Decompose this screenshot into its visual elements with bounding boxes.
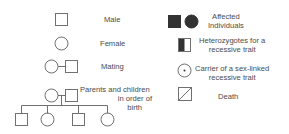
male-square-icon [56, 14, 68, 26]
death-label: Death [218, 92, 238, 101]
affected-square-icon [169, 16, 181, 28]
family-label-line-2: in order of [80, 94, 152, 103]
affected-label: Affected Individuals [208, 12, 244, 30]
death-icon [179, 88, 192, 101]
pedigree-legend: Male Female Mating Parents and children … [0, 0, 289, 134]
female-circle-icon [55, 37, 68, 50]
carrier-label-line-1: Carrier of a sex-linked [195, 64, 269, 73]
mating-label: Mating [101, 62, 124, 71]
mating-icon [45, 60, 78, 73]
family-label: Parents and children in order of birth [80, 85, 152, 112]
family-label-line-1: Parents and children [80, 85, 152, 94]
affected-label-line-2: Individuals [208, 21, 244, 30]
affected-label-line-1: Affected [208, 12, 244, 21]
affected-circle-icon [185, 15, 198, 28]
family-label-line-3: birth [80, 103, 152, 112]
heterozygote-label-line-2: recessive trait [199, 45, 265, 54]
carrier-dot [184, 70, 186, 72]
heterozygote-fill [179, 39, 185, 51]
heterozygote-label: Heterozygotes for a recessive trait [199, 36, 265, 54]
male-label: Male [104, 15, 120, 24]
carrier-label-line-2: recessive trait [195, 73, 269, 82]
carrier-label: Carrier of a sex-linked recessive trait [195, 64, 269, 82]
female-label: Female [100, 39, 125, 48]
heterozygote-label-line-1: Heterozygotes for a [199, 36, 265, 45]
